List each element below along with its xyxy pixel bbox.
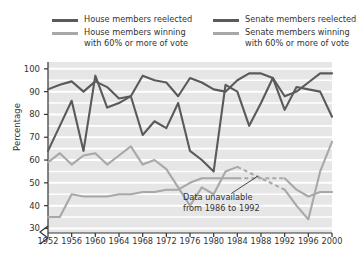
x-axis-tick-label: 1956 <box>59 236 85 246</box>
x-axis-tick-label: 1980 <box>201 236 227 246</box>
x-axis-tick-label: 2000 <box>319 236 345 246</box>
y-axis-tick-label: 100 <box>18 64 40 74</box>
x-axis-tick-label: 1960 <box>82 236 108 246</box>
x-axis-tick-label: 1992 <box>272 236 298 246</box>
x-axis-tick-label: 1972 <box>153 236 179 246</box>
y-axis-tick-label: 60 <box>18 155 40 165</box>
y-axis-tick-label: 70 <box>18 132 40 142</box>
annotation-line1: Data unavailable <box>183 192 260 203</box>
y-axis-tick-label: 50 <box>18 178 40 188</box>
x-axis-tick-label: 1964 <box>106 236 132 246</box>
y-axis-tick-label: 30 <box>18 223 40 233</box>
annotation-line2: from 1986 to 1992 <box>183 203 260 214</box>
y-axis-tick-label: 40 <box>18 201 40 211</box>
y-axis-tick-label: 90 <box>18 87 40 97</box>
x-axis-tick-label: 1952 <box>35 236 61 246</box>
x-axis-tick-label: 1968 <box>130 236 156 246</box>
x-axis-tick-label: 1996 <box>295 236 321 246</box>
x-axis-tick-label: 1988 <box>248 236 274 246</box>
x-axis-tick-label: 1984 <box>224 236 250 246</box>
x-axis-tick-label: 1976 <box>177 236 203 246</box>
y-axis-tick-label: 80 <box>18 109 40 119</box>
annotation-data-unavailable: Data unavailable from 1986 to 1992 <box>183 192 260 214</box>
